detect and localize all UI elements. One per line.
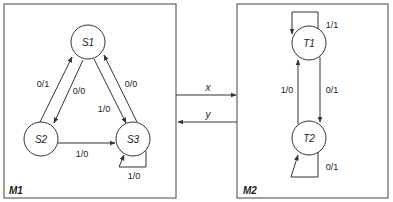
transition-label-t1-self: 1/1 [326, 20, 339, 30]
transition-t2-self [291, 152, 318, 177]
transition-label-s3-s1: 0/0 [125, 79, 138, 89]
state-s2-label: S2 [35, 134, 48, 145]
machine-m2: T1 T2 1/1 1/0 0/1 0/1 M2 [237, 4, 388, 198]
transition-label-t1-t2: 0/1 [326, 85, 339, 95]
transition-label-t2-t1: 1/0 [281, 85, 294, 95]
signal-x-label: x [205, 82, 212, 93]
transition-label-s1-s3: 1/0 [98, 104, 111, 114]
state-s3-label: S3 [127, 134, 140, 145]
signals: x y [176, 82, 237, 122]
state-t1-label: T1 [303, 38, 315, 49]
state-t2: T2 [292, 121, 326, 155]
machine-m1: S1 S2 S3 0/1 0/0 1/0 0/0 1/0 1/0 M1 [4, 4, 176, 198]
state-s1: S1 [71, 25, 105, 59]
m1-label: M1 [9, 185, 23, 196]
state-t2-label: T2 [303, 133, 315, 144]
state-machine-diagram: S1 S2 S3 0/1 0/0 1/0 0/0 1/0 1/0 M1 x y [0, 0, 393, 202]
state-s1-label: S1 [82, 37, 94, 48]
transition-label-s2-s3: 1/0 [76, 149, 89, 159]
signal-y-label: y [205, 109, 212, 120]
state-s2: S2 [24, 122, 58, 156]
state-t1: T1 [292, 26, 326, 60]
transition-label-t2-self: 0/1 [326, 162, 339, 172]
transition-label-s2-s1: 0/1 [37, 79, 50, 89]
transition-label-s3-self: 1/0 [128, 171, 141, 181]
transition-s2-to-s1 [40, 57, 72, 122]
state-s3: S3 [116, 122, 150, 156]
m2-label: M2 [243, 185, 257, 196]
transition-label-s1-s2: 0/0 [73, 86, 86, 96]
